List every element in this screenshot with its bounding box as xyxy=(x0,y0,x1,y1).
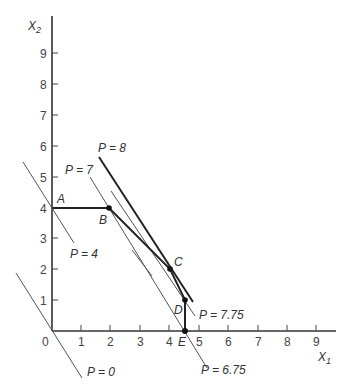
y-tick-label: 1 xyxy=(40,294,47,308)
point-d-label: D xyxy=(174,303,183,317)
isoprofit-line-p8 xyxy=(99,157,193,302)
x-tick-label: 3 xyxy=(137,335,144,349)
point-c-label: C xyxy=(174,255,183,269)
point-c-marker xyxy=(167,266,173,272)
y-tick-label: 5 xyxy=(40,171,47,185)
point-d-marker xyxy=(182,297,188,303)
diagram-canvas: 1 2 3 4 5 6 7 8 9 0 1 2 3 4 5 6 7 8 9 X2… xyxy=(0,0,349,392)
x-tick-label: 1 xyxy=(78,335,85,349)
x-tick-label: 4 xyxy=(166,335,173,349)
y-tick-label: 3 xyxy=(40,232,47,246)
x-tick-label: 9 xyxy=(313,335,320,349)
y-ticks xyxy=(52,53,58,300)
label-p775: P = 7.75 xyxy=(199,308,244,322)
y-axis-title: X2 xyxy=(27,19,41,35)
x-tick-label: 7 xyxy=(255,335,262,349)
y-tick-label: 8 xyxy=(40,78,47,92)
x-tick-label: 5 xyxy=(196,335,203,349)
y-tick-label: 4 xyxy=(40,202,47,216)
production-frontier xyxy=(52,208,185,331)
x-tick-label: 6 xyxy=(225,335,232,349)
y-tick-label: 9 xyxy=(40,47,47,61)
y-tick-label: 7 xyxy=(40,109,47,123)
isoprofit-line-p0 xyxy=(16,273,82,378)
x-axis-title: X1 xyxy=(317,350,331,366)
isoprofit-line-p775 xyxy=(111,191,195,316)
label-p4: P = 4 xyxy=(70,247,98,261)
label-p8: P = 8 xyxy=(98,141,126,155)
x-ticks xyxy=(81,325,316,331)
x-tick-label: 8 xyxy=(284,335,291,349)
label-p0: P = 0 xyxy=(87,365,115,379)
x-tick-label: 2 xyxy=(107,335,114,349)
y-tick-label: 2 xyxy=(40,263,47,277)
point-b-label: B xyxy=(99,213,107,227)
label-p7: P = 7 xyxy=(65,163,94,177)
y-tick-label: 6 xyxy=(40,140,47,154)
isoprofit-line-short xyxy=(132,250,152,276)
point-e-label: E xyxy=(178,335,187,349)
point-e-marker xyxy=(182,328,188,334)
origin-label: 0 xyxy=(42,335,49,349)
point-a-label: A xyxy=(56,192,65,206)
point-b-marker xyxy=(106,205,112,211)
label-p675: P = 6.75 xyxy=(201,363,246,377)
